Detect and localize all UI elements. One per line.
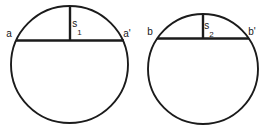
sagitta-subscript: 1 (77, 28, 82, 37)
circle-group-right: b b' s2 (147, 14, 258, 124)
label-point-a: a (6, 28, 12, 39)
label-point-b-prime: b' (248, 26, 256, 37)
label-segment-s1: s1 (72, 18, 82, 37)
label-point-a-prime: a' (123, 28, 131, 39)
label-point-b: b (147, 26, 153, 37)
label-segment-s2: s2 (204, 20, 214, 39)
circle-group-left: a a' s1 (6, 6, 131, 123)
figure-canvas: a a' s1 b b' s2 (0, 0, 270, 133)
geometry-diagram: a a' s1 b b' s2 (0, 0, 270, 133)
sagitta-subscript: 2 (209, 30, 214, 39)
